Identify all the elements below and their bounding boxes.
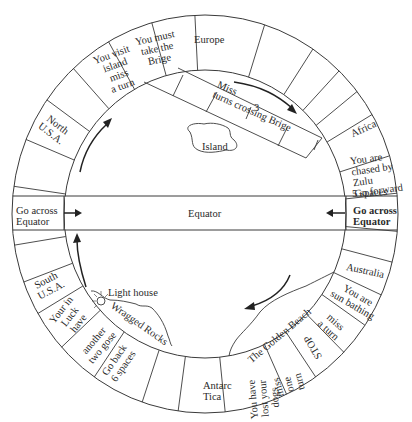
label-go-across-equator-left: Go across Equator [16,205,58,227]
label-europe: Europe [194,34,224,45]
label-light-house: Light house [108,287,158,298]
label-equator-center: Equator [188,208,221,219]
label-lost-dogs: You have lost your dogs [246,377,282,419]
arrow-lower-left-icon [77,240,86,287]
label-go-across-equator-right: Go across Equator [353,205,397,227]
square-divider [249,25,265,77]
lighthouse-rays [92,291,108,308]
square-divider [303,71,339,111]
arrow-head [244,302,255,310]
bridge-divider [173,75,183,96]
label-five-spaces: 5 spaces [352,186,388,199]
square-divider [284,49,313,95]
arrow-lower-right-icon [252,275,290,306]
square-divider [178,357,185,411]
label-island: Island [202,141,228,152]
square-divider [345,227,397,232]
label-bridge-three: 3 [254,102,259,113]
square-divider [14,186,65,194]
beach-outline [229,272,334,356]
square-divider [26,139,74,160]
square-divider [316,91,357,125]
square-divider [342,249,392,262]
square-divider [14,237,65,246]
arrow-upper-left-icon [80,124,107,172]
bridge-divider [314,140,318,150]
lighthouse-icon [97,297,105,305]
label-antarctica: Antarc Tica [203,380,232,402]
arrow-head [73,233,81,243]
square-divider [142,350,159,402]
